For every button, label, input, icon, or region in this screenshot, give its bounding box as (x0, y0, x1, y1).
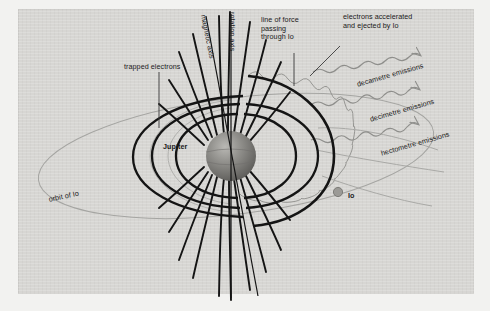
label-jupiter: Jupiter (163, 143, 187, 152)
label-trapped-electrons: trapped electrons (124, 63, 180, 72)
io-line-of-force (248, 76, 334, 226)
electrons-accelerated-leader (310, 46, 340, 76)
line-of-force-line-3: through Io (261, 32, 294, 41)
electrons-accelerated-line-2: and ejected by Io (343, 21, 399, 30)
label-io: Io (348, 192, 355, 201)
field-line-layer (0, 0, 490, 311)
label-rotation-axis: rotation axis (227, 12, 236, 51)
diagram-canvas: trapped electrons line of forcepassingth… (0, 0, 490, 311)
io-moon (333, 187, 342, 196)
label-electrons-accelerated: electrons acceleratedand ejected by Io (343, 13, 412, 30)
label-line-of-force: line of forcepassingthrough Io (261, 16, 299, 42)
